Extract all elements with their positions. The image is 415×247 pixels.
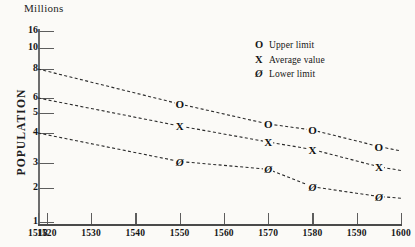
x-tick <box>47 213 48 224</box>
data-point-marker: Ø <box>307 181 317 192</box>
data-point-marker: Ø <box>263 164 273 175</box>
y-tick-label: 3 <box>16 156 38 167</box>
plot-area: 12345681016 1518152015301540155015601570… <box>0 0 415 247</box>
y-tick <box>38 113 54 114</box>
x-tick <box>38 213 39 224</box>
y-tick <box>38 98 54 99</box>
x-tick-label: 1590 <box>347 228 367 238</box>
legend-item: OUpper limit <box>255 38 325 53</box>
series-lines <box>0 0 415 247</box>
y-tick <box>38 69 54 70</box>
data-point-marker: O <box>374 141 385 152</box>
x-tick <box>312 213 313 224</box>
data-point-marker: X <box>175 121 185 132</box>
y-tick <box>38 188 54 189</box>
data-point-marker: X <box>307 144 317 155</box>
x-tick-label: 1560 <box>214 228 234 238</box>
series-line <box>38 133 401 198</box>
data-point-marker: Ø <box>175 156 185 167</box>
legend-symbol: Ø <box>255 67 269 81</box>
legend-symbol: O <box>255 38 269 52</box>
x-tick-label: 1530 <box>81 228 101 238</box>
y-tick <box>38 163 54 164</box>
legend-item: ØLower limit <box>255 67 325 82</box>
x-tick <box>180 213 181 224</box>
y-tick-label: 10 <box>16 41 38 52</box>
legend-symbol: X <box>255 53 269 67</box>
y-tick-label: 16 <box>16 24 38 35</box>
x-tick-label: 1550 <box>170 228 190 238</box>
x-tick-label: 1540 <box>125 228 145 238</box>
y-tick-label: 4 <box>16 126 38 137</box>
y-tick <box>38 133 54 134</box>
data-point-marker: O <box>174 99 185 110</box>
x-tick-label: 1600 <box>391 228 411 238</box>
legend-item: XAverage value <box>255 53 325 68</box>
chart-page: Millions POPULATION 12345681016 15181520… <box>0 0 415 247</box>
x-tick <box>357 213 358 224</box>
x-tick <box>268 213 269 224</box>
data-point-marker: O <box>263 119 274 130</box>
x-tick-label: 1570 <box>258 228 278 238</box>
data-point-marker: Ø <box>374 191 384 202</box>
y-tick-label: 8 <box>16 62 38 73</box>
x-tick <box>91 213 92 224</box>
legend-label: Average value <box>269 54 325 68</box>
data-point-marker: X <box>374 161 384 172</box>
x-axis-line <box>38 224 402 226</box>
y-tick <box>38 31 54 32</box>
x-tick-label: 1520 <box>37 228 57 238</box>
x-tick-label: 1580 <box>303 228 323 238</box>
x-tick <box>135 213 136 224</box>
x-tick <box>224 213 225 224</box>
y-tick <box>38 48 54 49</box>
data-point-marker: O <box>307 125 318 136</box>
legend-label: Upper limit <box>269 39 314 53</box>
legend: OUpper limitXAverage valueØLower limit <box>255 38 325 82</box>
y-tick-label: 6 <box>16 91 38 102</box>
y-tick-label: 2 <box>16 181 38 192</box>
y-axis-line <box>38 29 40 225</box>
legend-label: Lower limit <box>269 68 315 82</box>
y-tick-label: 5 <box>16 106 38 117</box>
data-point-marker: X <box>263 137 273 148</box>
series-line <box>38 98 401 171</box>
y-tick-label: 1 <box>16 215 38 226</box>
series-line <box>38 69 401 151</box>
x-tick <box>401 213 402 224</box>
